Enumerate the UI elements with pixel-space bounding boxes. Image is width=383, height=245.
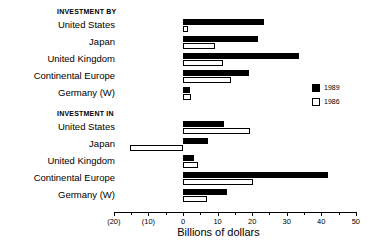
bar-1986 bbox=[183, 196, 207, 202]
bar-row: Germany (W) bbox=[0, 188, 383, 205]
bar-1989 bbox=[183, 53, 299, 59]
bar-row: United States bbox=[0, 18, 383, 35]
bar-row: United States bbox=[0, 120, 383, 137]
legend: 1989 1986 bbox=[312, 82, 340, 110]
category-label: United Kingdom bbox=[47, 155, 115, 166]
axis-tick bbox=[252, 212, 253, 216]
category-label: Japan bbox=[89, 138, 115, 149]
bar-1986 bbox=[183, 128, 250, 134]
axis-tick-minor bbox=[200, 212, 201, 215]
bar-row: Continental Europe bbox=[0, 171, 383, 188]
axis-tick bbox=[321, 212, 322, 216]
axis-tick-minor bbox=[235, 212, 236, 215]
axis-tick-minor bbox=[166, 212, 167, 215]
axis-tick-label: 10 bbox=[213, 217, 221, 226]
axis-title: Billions of dollars bbox=[0, 226, 383, 238]
bar-1986 bbox=[183, 179, 253, 185]
axis-tick bbox=[183, 212, 184, 216]
legend-item-1989: 1989 bbox=[312, 82, 340, 93]
axis-tick-minor bbox=[304, 212, 305, 215]
axis-tick-label: 20 bbox=[248, 217, 256, 226]
axis-tick-label: (10) bbox=[142, 217, 155, 226]
category-label: United States bbox=[58, 19, 115, 30]
legend-swatch-icon bbox=[312, 84, 320, 92]
bar-1989 bbox=[183, 189, 227, 195]
axis-tick bbox=[287, 212, 288, 216]
axis-tick-minor bbox=[131, 212, 132, 215]
category-label: Germany (W) bbox=[58, 189, 115, 200]
x-axis: (20)(10)01020304050 Billions of dollars bbox=[0, 212, 383, 245]
bar-1989 bbox=[183, 121, 224, 127]
bar-1986 bbox=[130, 145, 183, 151]
bar-1989 bbox=[183, 172, 328, 178]
bar-row: Japan bbox=[0, 137, 383, 154]
bar-row: Japan bbox=[0, 35, 383, 52]
bar-1986 bbox=[183, 60, 223, 66]
legend-swatch-icon bbox=[312, 98, 320, 106]
axis-tick-label: (20) bbox=[107, 217, 120, 226]
bar-1986 bbox=[183, 26, 188, 32]
bar-1989 bbox=[183, 138, 208, 144]
bar-1989 bbox=[183, 70, 249, 76]
category-label: Continental Europe bbox=[34, 70, 115, 81]
axis-tick-label: 40 bbox=[317, 217, 325, 226]
axis-tick-label: 30 bbox=[283, 217, 291, 226]
axis-tick bbox=[148, 212, 149, 216]
bar-row: United Kingdom bbox=[0, 52, 383, 69]
axis-tick bbox=[356, 212, 357, 216]
axis-tick-minor bbox=[269, 212, 270, 215]
bar-1986 bbox=[183, 77, 231, 83]
axis-tick-label: 50 bbox=[352, 217, 360, 226]
axis-tick bbox=[218, 212, 219, 216]
category-label: Japan bbox=[89, 36, 115, 47]
legend-item-1986: 1986 bbox=[312, 96, 340, 107]
bar-1989 bbox=[183, 36, 258, 42]
bar-1986 bbox=[183, 162, 198, 168]
bar-1986 bbox=[183, 43, 215, 49]
legend-label: 1989 bbox=[324, 84, 340, 91]
bar-1989 bbox=[183, 155, 194, 161]
panel-title-investment-in: INVESTMENT IN bbox=[57, 110, 114, 117]
category-label: United Kingdom bbox=[47, 53, 115, 64]
bar-1989 bbox=[183, 19, 264, 25]
legend-label: 1986 bbox=[324, 98, 340, 105]
category-label: United States bbox=[58, 121, 115, 132]
axis-tick bbox=[114, 212, 115, 216]
category-label: Germany (W) bbox=[58, 87, 115, 98]
axis-tick-label: 0 bbox=[181, 217, 185, 226]
bar-row: United Kingdom bbox=[0, 154, 383, 171]
bar-1986 bbox=[183, 94, 191, 100]
investment-bar-chart: INVESTMENT BY United States Japan United… bbox=[0, 0, 383, 245]
category-label: Continental Europe bbox=[34, 172, 115, 183]
bar-1989 bbox=[183, 87, 190, 93]
axis-tick-minor bbox=[339, 212, 340, 215]
panel-title-investment-by: INVESTMENT BY bbox=[57, 8, 116, 15]
